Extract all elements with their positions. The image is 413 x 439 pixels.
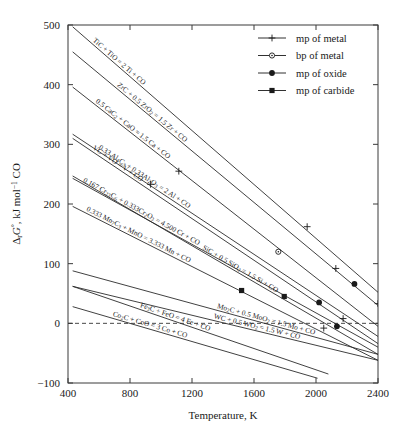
curves-layer: TiC + TiO = 2 Ti + COZrC + 0.5 ZrO2 = 1.… (73, 27, 382, 378)
series-marker (334, 323, 340, 329)
x-tick-label: 400 (60, 387, 77, 399)
x-tick-label: 1600 (243, 387, 266, 399)
y-tick-label: 500 (44, 19, 61, 31)
y-tick-label: 100 (44, 258, 61, 270)
x-tick-label: 2000 (305, 387, 328, 399)
legend-label-3: mp of carbide (296, 85, 355, 96)
x-tick-label: 1200 (181, 387, 204, 399)
series-marker (375, 300, 382, 307)
series-marker (239, 288, 244, 293)
marker-filled-circle (352, 281, 358, 287)
plot-frame (68, 25, 378, 383)
series-marker (276, 249, 281, 254)
x-axis-title: Temperature, K (189, 409, 258, 421)
y-tick-label: 200 (44, 198, 61, 210)
y-tick-label: −100 (37, 377, 60, 389)
chart-svg: 4008001200160020002400−10001002003004005… (0, 0, 413, 439)
legend-label-1: bp of metal (296, 50, 344, 61)
y-tick-label: 300 (44, 138, 61, 150)
marker-filled-square (239, 288, 244, 293)
legend-marker-filled-circle (269, 70, 275, 76)
marker-filled-square (269, 88, 274, 93)
series-marker (316, 300, 322, 306)
legend-marker-open-circle (269, 53, 274, 58)
y-axis-title: ΔrG°, kJ mol−1 CO (10, 163, 24, 245)
series-label: ZrC + 0.5 ZrO2 = 1.5 Zr + CO (116, 80, 190, 144)
legend-marker-filled-square (269, 88, 274, 93)
legend-label-2: mp of oxide (296, 68, 347, 79)
marker-filled-circle (269, 70, 275, 76)
marker-filled-circle (316, 300, 322, 306)
series-label: TiC + TiO = 2 Ti + CO (91, 36, 148, 87)
legend: mp of metalbp of metalmp of oxidemp of c… (258, 33, 355, 97)
x-tick-label: 800 (122, 387, 139, 399)
series-2 (73, 87, 378, 326)
y-tick-label: 400 (44, 79, 61, 91)
series-label: VC + VO = V + CO (91, 143, 145, 183)
y-tick-label: 0 (55, 317, 61, 329)
series-7 (73, 176, 378, 354)
series-marker (340, 315, 347, 322)
series-marker (332, 265, 339, 272)
marker-open-circle-dot (278, 251, 280, 253)
series-label: SiC + 0.5 SiO2 = 1.5 Si + CO (201, 243, 280, 294)
series-line (73, 87, 378, 326)
marker-filled-circle (334, 323, 340, 329)
legend-label-0: mp of metal (296, 33, 347, 44)
x-tick-label: 2400 (367, 387, 390, 399)
marker-open-circle-dot (271, 55, 273, 57)
series-marker (352, 281, 358, 287)
series-marker (320, 325, 327, 332)
figure-container: 4008001200160020002400−10001002003004005… (0, 0, 413, 439)
legend-marker-plus (269, 35, 276, 42)
series-line (73, 176, 378, 354)
